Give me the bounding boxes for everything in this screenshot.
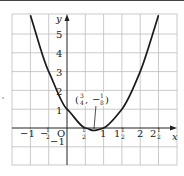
svg-text:2: 2 [121, 133, 125, 140]
svg-text:1: 1 [121, 126, 125, 133]
svg-text:3: 3 [56, 67, 62, 78]
x-axis-label: x [172, 131, 178, 142]
svg-text:2: 2 [56, 86, 62, 97]
y-axis-arrow-icon [65, 14, 70, 21]
vertex-annotation: ( 3 4 , − 1 8 ) [74, 92, 116, 106]
svg-text:8: 8 [100, 99, 104, 106]
parabola-chart: y x 5 4 3 2 1 −1 O −1 − 1 2 1 2 1 1 1 2 … [0, 0, 184, 176]
svg-text:5: 5 [56, 29, 62, 40]
svg-text:2: 2 [157, 133, 161, 140]
svg-text:1: 1 [46, 126, 50, 133]
svg-text:2: 2 [137, 128, 143, 139]
origin-label: O [57, 128, 65, 139]
y-axis-label: y [55, 13, 62, 24]
parabola-curve [30, 15, 158, 130]
svg-text:1: 1 [56, 105, 62, 116]
svg-text:4: 4 [80, 99, 84, 106]
stray-dot [2, 97, 3, 98]
svg-text:(: ( [75, 94, 79, 105]
svg-text:): ) [105, 94, 109, 105]
svg-text:1: 1 [114, 128, 120, 139]
svg-text:1: 1 [100, 92, 104, 99]
svg-text:1: 1 [82, 126, 86, 133]
x-axis-arrow-icon [170, 126, 177, 131]
svg-text:1: 1 [157, 126, 161, 133]
svg-text:1: 1 [100, 128, 106, 139]
svg-text:4: 4 [56, 48, 62, 59]
svg-text:2: 2 [82, 133, 86, 140]
vertex-pointer [94, 105, 96, 129]
svg-text:2: 2 [46, 133, 50, 140]
svg-text:−1: −1 [20, 128, 35, 139]
svg-text:3: 3 [80, 92, 84, 99]
svg-text:2: 2 [150, 128, 156, 139]
svg-text:,: , [85, 94, 88, 105]
